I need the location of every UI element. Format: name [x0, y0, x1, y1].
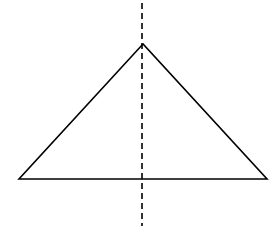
- diagram-canvas: [0, 0, 275, 233]
- triangle: [19, 44, 267, 179]
